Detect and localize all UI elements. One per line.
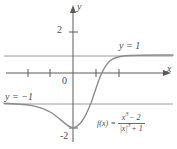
asymptote-label-bottom: y = −1 xyxy=(5,92,33,102)
x-axis-label: x xyxy=(167,64,171,74)
denominator-rest: + 1 xyxy=(131,124,142,133)
formula-function-name: f(x) xyxy=(97,119,108,128)
y-tick-label-negative-2: -2 xyxy=(60,131,68,141)
y-tick-label-2: 2 xyxy=(57,25,62,35)
origin-label: 0 xyxy=(62,76,67,86)
asymptote-label-top: y = 1 xyxy=(119,41,140,51)
function-formula: f(x) = x3 − 2 |x|3 + 1 xyxy=(97,114,145,133)
y-axis-arrowhead xyxy=(70,5,76,13)
math-figure: y x 2 0 -2 y = 1 y = −1 f(x) = x3 − 2 |x… xyxy=(0,0,177,149)
y-axis-label: y xyxy=(77,2,81,12)
formula-equals-sign: = xyxy=(111,119,116,128)
formula-numerator: x3 − 2 xyxy=(120,114,143,123)
formula-fraction: x3 − 2 |x|3 + 1 xyxy=(118,114,145,133)
numerator-rest: − 2 xyxy=(129,113,140,122)
numerator-exponent: 3 xyxy=(125,111,128,117)
graph-canvas xyxy=(0,0,177,149)
formula-denominator: |x|3 + 1 xyxy=(118,123,145,133)
denominator-base: |x| xyxy=(120,124,128,133)
